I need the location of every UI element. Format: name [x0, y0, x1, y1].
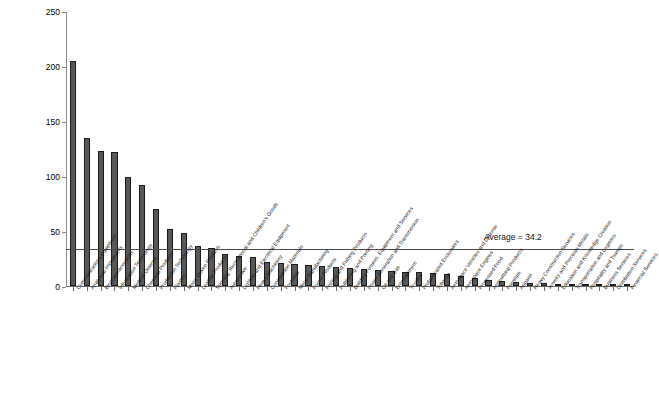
- bar: [84, 138, 90, 287]
- y-tick-label: 250: [34, 8, 60, 16]
- y-tick-label: 0: [34, 283, 60, 291]
- y-tick-label: 50: [34, 228, 60, 236]
- y-tick-label: 100: [34, 173, 60, 181]
- y-tick-label: 150: [34, 118, 60, 126]
- x-axis-category-labels: Communications EquipmentAnalytical Instr…: [66, 287, 641, 407]
- y-axis-title: Patents per 10,000 Employees, 2000: [6, 0, 20, 28]
- bar: [70, 61, 76, 287]
- y-tick-label: 200: [34, 63, 60, 71]
